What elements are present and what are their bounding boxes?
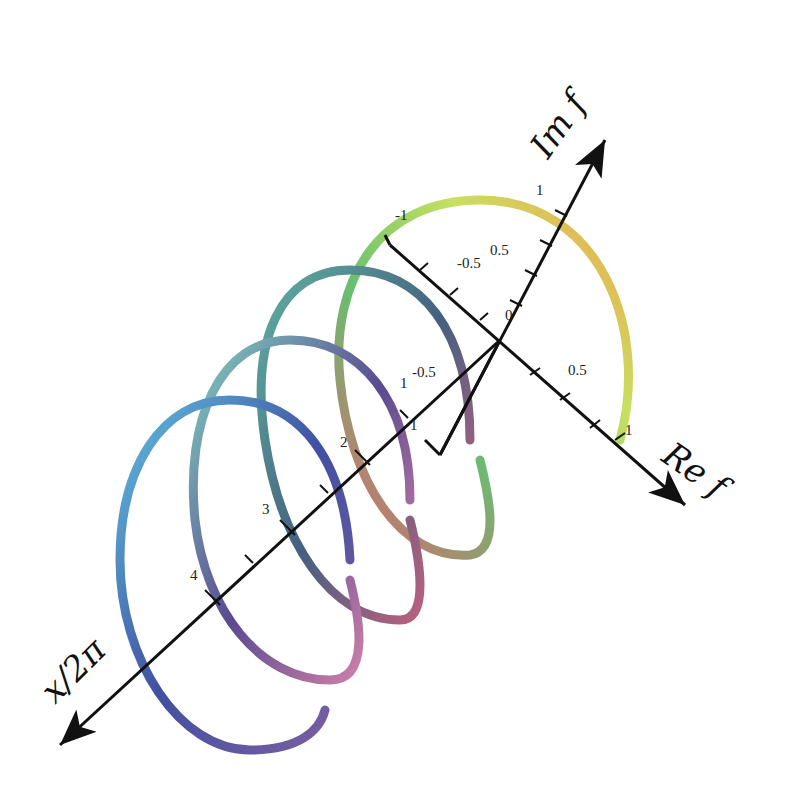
svg-text:2: 2 [340, 434, 348, 450]
re-axis-label: Re f [655, 433, 740, 509]
helix-diagram: 2 3 4 1 1 -0.5 0.5 1 -1 -0.5 0.5 0 1 Im … [0, 0, 799, 792]
x-axis-label: x/2π [32, 629, 114, 711]
helix-curve [120, 200, 629, 750]
svg-text:0: 0 [505, 307, 513, 323]
x-axis [60, 340, 500, 745]
svg-text:3: 3 [262, 501, 270, 517]
svg-text:1: 1 [536, 182, 544, 198]
svg-text:1: 1 [410, 417, 418, 433]
svg-text:-0.5: -0.5 [412, 364, 436, 380]
svg-text:0.5: 0.5 [490, 242, 509, 258]
svg-text:1: 1 [625, 422, 633, 438]
svg-text:4: 4 [190, 567, 198, 583]
svg-text:-1: -1 [395, 207, 408, 223]
svg-text:1: 1 [400, 375, 408, 391]
svg-text:0.5: 0.5 [568, 362, 587, 378]
im-axis-label: Im f [521, 81, 597, 166]
svg-text:-0.5: -0.5 [457, 255, 481, 271]
